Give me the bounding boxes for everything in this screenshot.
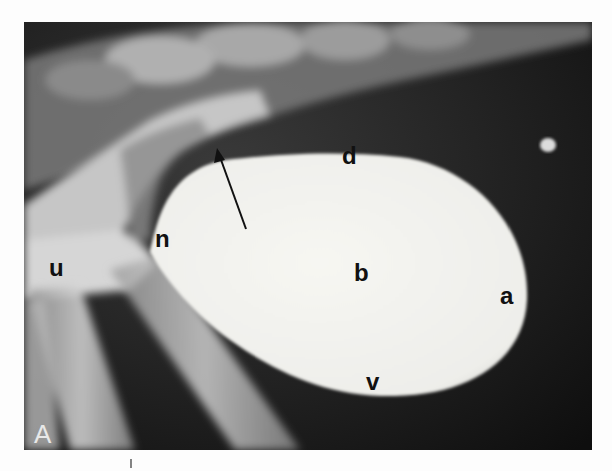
- label-u: u: [49, 254, 64, 281]
- label-v: v: [366, 368, 380, 395]
- panel-label: A: [34, 419, 52, 449]
- label-b: b: [354, 259, 369, 286]
- label-d: d: [342, 142, 357, 169]
- radiograph-figure: u n d b a v A: [0, 0, 612, 471]
- label-a: a: [500, 282, 514, 309]
- calcific-density: [540, 138, 556, 152]
- label-n: n: [155, 225, 170, 252]
